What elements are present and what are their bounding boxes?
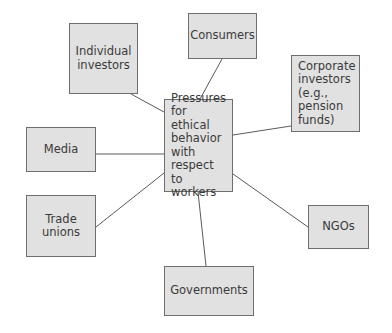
edge-ngos bbox=[233, 174, 308, 227]
node-governments: Governments bbox=[164, 266, 254, 316]
edge-individual-investors bbox=[131, 94, 164, 112]
edge-governments bbox=[198, 192, 206, 266]
diagram-canvas: Pressures for ethical behavior with resp… bbox=[0, 0, 392, 333]
node-consumers: Consumers bbox=[188, 13, 257, 59]
node-label: Individual investors bbox=[75, 45, 131, 72]
node-trade-unions: Trade unions bbox=[26, 195, 96, 257]
node-label: Trade unions bbox=[42, 213, 80, 240]
node-label: NGOs bbox=[322, 220, 355, 234]
node-corporate-investors: Corporate investors (e.g., pension funds… bbox=[291, 55, 360, 132]
center-node-label: Pressures for ethical behavior with resp… bbox=[171, 92, 228, 200]
node-individual-investors: Individual investors bbox=[69, 23, 138, 94]
node-label: Media bbox=[44, 143, 79, 157]
edge-trade-unions bbox=[96, 173, 164, 227]
node-ngos: NGOs bbox=[308, 205, 369, 249]
center-node: Pressures for ethical behavior with resp… bbox=[164, 99, 233, 192]
node-label: Corporate investors (e.g., pension funds… bbox=[298, 60, 356, 128]
node-label: Consumers bbox=[190, 29, 255, 43]
node-media: Media bbox=[26, 127, 96, 172]
node-label: Governments bbox=[170, 284, 248, 298]
edge-corporate-investors bbox=[233, 126, 291, 135]
